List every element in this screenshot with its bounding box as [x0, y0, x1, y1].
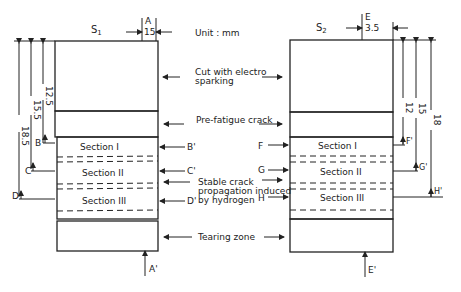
section-label: Section III	[82, 196, 126, 206]
dash-line	[57, 161, 158, 162]
cut-annotation: sparking	[195, 76, 234, 86]
marker-b: B	[35, 138, 41, 148]
cut-label-end: E'	[368, 265, 376, 275]
marker-h: H	[258, 193, 265, 203]
cut-dim: 15	[144, 27, 155, 37]
marker-g: G	[258, 165, 265, 175]
dim-12-5: 12.5	[44, 86, 54, 106]
specimen-diagram: Section I Section II Section III S1 A 15…	[0, 0, 461, 292]
prefatigue-zone-s2	[290, 112, 393, 137]
marker-f-prime: F'	[406, 137, 413, 146]
dim-18-5: 18.5	[20, 126, 30, 146]
dash-line	[57, 210, 158, 211]
dim-12: 12	[404, 102, 414, 113]
dash-line	[57, 188, 158, 189]
tearing-zone-s2	[290, 219, 393, 252]
section-label: Section I	[318, 141, 357, 151]
marker-g-prime: G'	[419, 163, 427, 172]
stable-annotation: by hydrogen	[198, 195, 255, 205]
marker-c-prime: C'	[187, 166, 196, 176]
prefatigue-zone-s1	[55, 111, 158, 137]
section-label: Section I	[80, 142, 119, 152]
dash-line	[57, 156, 158, 157]
marker-c: C	[25, 166, 31, 176]
annotations: Unit : mm Cut with electro sparking Pre-…	[163, 28, 291, 242]
cut-zone-s1	[55, 41, 158, 111]
cut-label: A	[145, 16, 152, 26]
marker-d-prime: D'	[187, 196, 196, 206]
specimen-s2: Section I Section II Section III S2 E 3.…	[258, 12, 443, 277]
dim-15-5: 15.5	[32, 100, 42, 120]
marker-h-prime: H'	[434, 187, 442, 196]
marker-f: F	[258, 141, 263, 151]
dim-15: 15	[417, 103, 427, 114]
marker-d: D	[12, 191, 19, 201]
tearing-zone-s1	[57, 221, 158, 251]
dash-line	[57, 183, 158, 184]
cut-label-end: A'	[149, 264, 158, 274]
dim-18: 18	[432, 114, 442, 126]
section-label: Section II	[82, 168, 124, 178]
unit-label: Unit : mm	[195, 28, 240, 38]
tearing-annotation: Tearing zone	[197, 232, 255, 242]
cut-label: E	[365, 12, 371, 22]
specimen-name: S2	[316, 22, 327, 35]
marker-b-prime: B'	[187, 142, 196, 152]
section-label: Section II	[320, 167, 362, 177]
cut-zone-s2	[290, 40, 393, 112]
specimen-name: S1	[91, 24, 102, 37]
cut-dim: 3.5	[365, 23, 379, 33]
section-label: Section III	[320, 193, 364, 203]
